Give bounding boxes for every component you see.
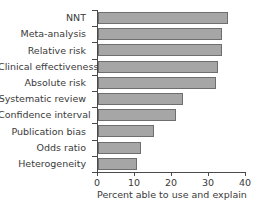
x-tick (134, 172, 135, 176)
bar-chart: NNTMeta-analysisRelative riskClinical ef… (0, 0, 253, 204)
bar-row (98, 75, 245, 91)
y-tick (92, 59, 97, 60)
y-axis-label: Odds ratio (0, 143, 86, 153)
x-tick-label: 10 (122, 177, 146, 188)
bar (98, 125, 154, 137)
bar-row (98, 107, 245, 123)
bar-row (98, 156, 245, 172)
y-axis-label: Absolute risk (0, 78, 86, 88)
x-tick (245, 172, 246, 176)
y-tick (92, 123, 97, 124)
bar (98, 142, 141, 154)
y-axis-label: Publication bias (0, 127, 86, 137)
bar-row (98, 123, 245, 139)
y-axis-label: Clinical effectiveness (0, 62, 86, 72)
x-tick (97, 172, 98, 176)
y-axis-label: Confidence interval (0, 110, 86, 120)
x-tick-label: 40 (233, 177, 253, 188)
x-tick-label: 0 (85, 177, 109, 188)
x-tick (208, 172, 209, 176)
x-axis-title: Percent able to use and explain (97, 189, 245, 200)
bar-row (98, 42, 245, 58)
y-tick (92, 140, 97, 141)
y-tick (92, 10, 97, 11)
bar (98, 158, 137, 170)
bar-row (98, 26, 245, 42)
bar-series (98, 10, 245, 172)
bar (98, 61, 218, 73)
y-axis-label: Systematic review (0, 94, 86, 104)
y-axis-label: Heterogeneity (0, 159, 86, 169)
y-axis-label: Meta-analysis (0, 29, 86, 39)
bar-row (98, 10, 245, 26)
y-axis-label: Relative risk (0, 46, 86, 56)
bar-row (98, 91, 245, 107)
y-tick (92, 26, 97, 27)
bar (98, 77, 216, 89)
y-tick (92, 91, 97, 92)
y-tick (92, 156, 97, 157)
x-tick-label: 30 (196, 177, 220, 188)
bar (98, 28, 222, 40)
y-axis-label: NNT (0, 13, 86, 23)
y-tick (92, 75, 97, 76)
bar (98, 44, 222, 56)
y-tick (92, 42, 97, 43)
bar-row (98, 140, 245, 156)
bar (98, 109, 176, 121)
x-tick (171, 172, 172, 176)
bar (98, 12, 228, 24)
y-tick (92, 107, 97, 108)
bar-row (98, 59, 245, 75)
bar (98, 93, 183, 105)
y-axis-category-labels: NNTMeta-analysisRelative riskClinical ef… (0, 10, 92, 172)
x-tick-label: 20 (159, 177, 183, 188)
